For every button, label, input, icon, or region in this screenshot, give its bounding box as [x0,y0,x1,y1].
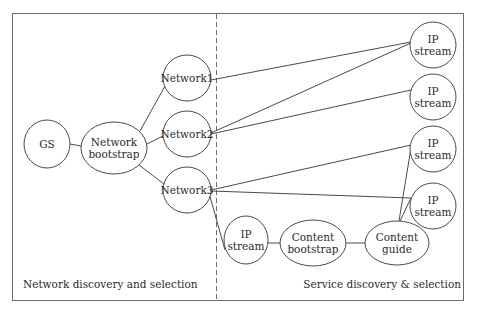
edge-content-guide-to-ip-stream-4 [400,198,411,221]
node-label: stream [414,206,451,218]
node-gs: GS [24,120,70,168]
node-content-guide: Contentguide [365,221,429,265]
node-ip-stream-5: IPstream [224,216,268,264]
edge-network-bootstrap-to-network1 [140,86,165,131]
node-network2: Network2 [161,111,214,157]
edge-network2-to-ip-stream-1 [211,43,411,133]
node-label: bootstrap [88,148,139,160]
node-label: Network [91,136,138,148]
node-label: IP [240,228,251,240]
edge-network3-to-ip-stream-3 [211,145,411,190]
node-label: GS [39,138,55,150]
node-label: guide [382,243,412,255]
node-content-bootstrap: Contentbootstrap [280,220,346,266]
node-network3: Network3 [161,167,214,213]
node-ip-stream-2: IPstream [410,74,456,120]
edge-gs-to-network-bootstrap [70,144,81,146]
node-label: Network2 [161,128,214,140]
node-network1: Network1 [161,55,214,101]
nodes: GSNetworkbootstrapNetwork1Network2Networ… [24,22,456,266]
region-label-service-discovery: Service discovery & selection [303,278,461,290]
node-label: bootstrap [287,243,338,255]
node-label: IP [427,33,438,45]
node-ip-stream-3: IPstream [410,126,456,172]
node-network-bootstrap: Networkbootstrap [81,122,147,174]
network-service-discovery-diagram: GSNetworkbootstrapNetwork1Network2Networ… [0,0,478,310]
node-label: stream [227,240,264,252]
edge-network-bootstrap-to-network3 [139,165,164,184]
node-label: stream [414,97,451,109]
edge-network1-to-ip-stream-1 [211,42,411,80]
node-label: stream [414,45,451,57]
node-label: Network3 [161,184,214,196]
node-label: stream [414,149,451,161]
node-label: IP [427,85,438,97]
node-ip-stream-1: IPstream [410,22,456,68]
node-label: Network1 [161,72,214,84]
node-ip-stream-4: IPstream [410,183,456,229]
node-label: IP [427,194,438,206]
node-label: IP [427,137,438,149]
edge-network2-to-ip-stream-2 [211,90,411,134]
edge-network3-to-ip-stream-4 [211,191,411,198]
node-label: Content [376,231,419,243]
region-label-network-discovery: Network discovery and selection [23,278,198,290]
node-label: Content [292,231,335,243]
